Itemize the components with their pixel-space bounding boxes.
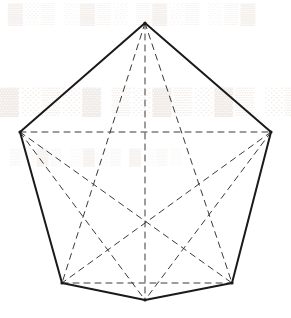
diag-left-bottomright [20, 132, 232, 283]
hexagon-figure [0, 0, 291, 318]
vertex-bottom-right [230, 281, 233, 284]
edge-left-top [20, 23, 145, 132]
edge-bottomleft-left [20, 132, 62, 283]
edge-top-right [145, 23, 271, 132]
hexagon-diagram-canvas: ▓░▒ ░▓▒░ ▒▓░▒ ░▒▓ ▓░▒░▓ ▒░▓▒░▓▒ ░▒▓░ ▒ ▒… [0, 0, 291, 318]
vertex-top [143, 21, 146, 24]
edge-bottomright-bottom [145, 283, 232, 300]
diag-top-bottomright [145, 23, 232, 283]
vertex-right [269, 130, 272, 133]
hexagon-diagonals-group [20, 23, 271, 300]
vertex-left [18, 130, 21, 133]
diag-top-bottomleft [62, 23, 145, 283]
diag-right-bottom [145, 132, 271, 300]
diag-right-bottomleft [62, 132, 271, 283]
vertex-bottom [143, 298, 146, 301]
edge-right-bottomright [232, 132, 271, 283]
vertex-bottom-left [60, 281, 63, 284]
edge-bottom-bottomleft [62, 283, 145, 300]
diag-left-bottom [20, 132, 145, 300]
